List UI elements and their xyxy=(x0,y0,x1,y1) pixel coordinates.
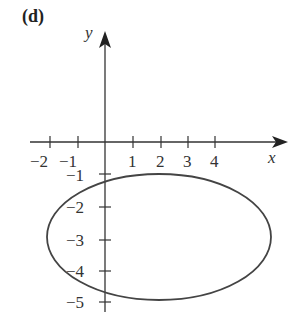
y-tick-label: −1 xyxy=(66,166,84,185)
x-tick-label: −2 xyxy=(30,152,48,171)
y-tick-label: −2 xyxy=(66,198,84,217)
y-axis-label: y xyxy=(83,23,93,42)
x-tick-label: 1 xyxy=(128,152,137,171)
panel-label: (d) xyxy=(22,6,44,27)
y-tick-label: −5 xyxy=(66,293,84,312)
chart-canvas: (d) y x −2 −1 1 2 3 4 −1 −2 −3 −4 −5 xyxy=(0,0,303,328)
x-axis-label: x xyxy=(267,148,276,167)
x-tick-label: 3 xyxy=(183,152,192,171)
x-tick-label: 2 xyxy=(156,152,165,171)
y-tick-label: −3 xyxy=(66,231,84,250)
x-tick-label: 4 xyxy=(210,152,219,171)
